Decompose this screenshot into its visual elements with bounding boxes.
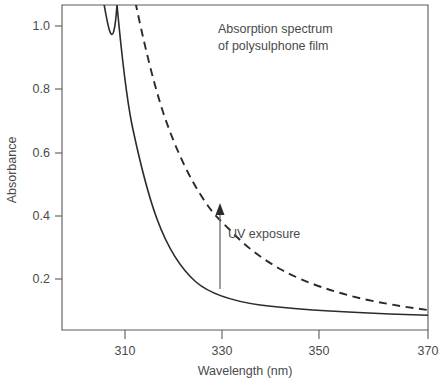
y-tick-label-0.4: 0.4 xyxy=(33,209,50,223)
y-axis-title: Absorbance xyxy=(5,137,19,204)
y-tick-label-1.0: 1.0 xyxy=(33,19,50,33)
x-tick-label-370: 370 xyxy=(418,344,439,358)
x-tick-label-330: 330 xyxy=(212,344,233,358)
absorption-spectrum-chart: 1.0 0.8 0.6 0.4 0.2 Absorbance 310 330 3… xyxy=(0,0,445,381)
chart-background xyxy=(0,0,445,381)
y-tick-label-0.8: 0.8 xyxy=(33,82,50,96)
plot-title-line-2: of polysulphone film xyxy=(218,39,328,53)
uv-exposure-label: UV exposure xyxy=(228,227,300,241)
y-tick-label-0.6: 0.6 xyxy=(33,146,50,160)
x-axis-title: Wavelength (nm) xyxy=(198,364,293,378)
plot-title-line-1: Absorption spectrum xyxy=(218,22,333,36)
y-tick-label-0.2: 0.2 xyxy=(33,272,50,286)
x-tick-label-310: 310 xyxy=(115,344,136,358)
x-tick-label-350: 350 xyxy=(309,344,330,358)
